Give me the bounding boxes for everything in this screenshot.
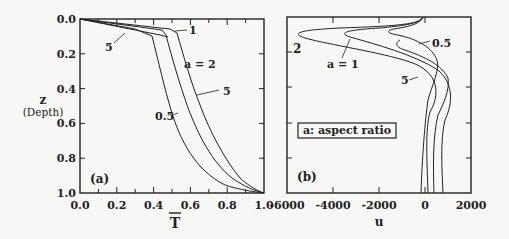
panel-b-label: (b) — [297, 170, 317, 184]
panel-b-ann-5: 5 — [401, 74, 409, 87]
panel-a: 0.0 0.2 0.4 0.6 0.8 1.0 0.0 0.2 0.4 0.6 … — [23, 13, 274, 231]
panel-a-ytick-0: 0.0 — [57, 13, 76, 26]
panel-a-ann-5-top: 5 — [105, 41, 113, 54]
panel-b-ann-a1: a = 1 — [327, 58, 359, 71]
panel-b-xtick-2: -2000 — [361, 199, 397, 212]
panel-a-xlabel: T — [170, 215, 181, 231]
panel-b: -6000 -4000 -2000 0 2000 u (b) a: aspect… — [269, 17, 486, 229]
panel-b-xtick-3: 0 — [421, 199, 429, 212]
panel-a-xtick-1: 0.2 — [107, 199, 126, 212]
panel-a-ann-1: 1 — [189, 24, 197, 37]
panel-a-xtick-2: 0.4 — [144, 199, 163, 212]
panel-a-ytick-1: 0.2 — [57, 48, 76, 61]
panel-a-ytick-2: 0.4 — [57, 83, 76, 96]
panel-b-xlabel: u — [375, 215, 384, 229]
panel-a-ylabel: z — [40, 93, 47, 107]
panel-b-xtick-0: -6000 — [269, 199, 305, 212]
panel-a-ann-05: 0.5 — [155, 110, 174, 123]
curve-b-a-5 — [397, 40, 449, 193]
panel-b-curves — [298, 17, 450, 193]
panel-a-ytick-4: 0.8 — [57, 152, 76, 165]
panel-b-xtick-1: -4000 — [315, 199, 351, 212]
panel-b-xtick-4: 2000 — [456, 199, 487, 212]
panel-a-ann-a2: a = 2 — [184, 58, 216, 71]
panel-a-label: (a) — [90, 172, 109, 186]
panel-b-ann-05: 0.5 — [432, 37, 451, 50]
panel-b-ann-2: 2 — [293, 42, 301, 56]
panel-a-ytick-3: 0.6 — [57, 117, 76, 130]
panel-a-ytick-5: 1.0 — [57, 187, 76, 200]
legend-text: a: aspect ratio — [303, 124, 391, 137]
panel-a-xtick-3: 0.6 — [181, 199, 200, 212]
panel-a-ann-5-mid: 5 — [223, 85, 231, 98]
curve-b-a-2 — [298, 17, 436, 193]
panel-a-ylabel-sub: (Depth) — [23, 106, 64, 118]
curve-b-a-05 — [388, 17, 437, 193]
figure: 0.0 0.2 0.4 0.6 0.8 1.0 0.0 0.2 0.4 0.6 … — [0, 0, 509, 239]
panel-a-xtick-0: 0.0 — [70, 199, 89, 212]
panel-a-xtick-4: 0.8 — [218, 199, 237, 212]
